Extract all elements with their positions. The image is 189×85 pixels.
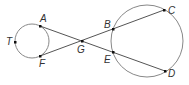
label-E: E	[104, 54, 111, 65]
point-G	[81, 40, 84, 43]
label-B: B	[104, 19, 111, 30]
small-circle	[15, 24, 49, 58]
point-E	[112, 51, 115, 54]
label-D: D	[168, 68, 175, 79]
point-T	[14, 41, 17, 44]
label-A: A	[39, 13, 47, 24]
label-G: G	[77, 44, 85, 55]
label-C: C	[168, 5, 176, 16]
label-T: T	[6, 36, 13, 47]
point-D	[164, 70, 167, 73]
point-B	[112, 28, 115, 31]
label-F: F	[39, 58, 46, 69]
point-C	[163, 9, 166, 12]
point-A	[39, 25, 42, 28]
geometry-diagram: T A F G B E C D	[0, 0, 189, 85]
